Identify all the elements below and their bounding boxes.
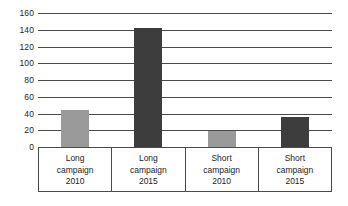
category-label-table: Longcampaign2010Longcampaign2015Shortcam…: [38, 147, 332, 192]
y-gridline: [38, 80, 332, 81]
y-axis-tick-label: 80: [2, 76, 34, 85]
bar-chart-figure: Longcampaign2010Longcampaign2015Shortcam…: [0, 0, 348, 206]
category-label-cell: Longcampaign2015: [112, 148, 185, 191]
y-gridline: [38, 47, 332, 48]
y-axis-tick-label: 40: [2, 110, 34, 119]
y-gridline: [38, 63, 332, 64]
y-axis-tick-label: 60: [2, 93, 34, 102]
category-label-line: campaign: [57, 165, 94, 176]
category-label-line: 2015: [285, 176, 304, 187]
bar: [134, 28, 162, 147]
y-gridline: [38, 30, 332, 31]
category-label-cell: Longcampaign2010: [39, 148, 112, 191]
y-axis-tick-label: 100: [2, 59, 34, 68]
category-label-cell: Shortcampaign2010: [186, 148, 259, 191]
category-label-line: Short: [285, 153, 305, 164]
category-label-line: campaign: [203, 165, 240, 176]
category-label-line: Short: [211, 153, 231, 164]
category-label-line: campaign: [130, 165, 167, 176]
category-label-cell: Shortcampaign2015: [259, 148, 331, 191]
category-label-line: Long: [66, 153, 85, 164]
y-axis-tick-label: 20: [2, 126, 34, 135]
bar: [281, 117, 309, 147]
plot-area: [38, 13, 332, 147]
bar: [61, 110, 89, 147]
y-gridline: [38, 97, 332, 98]
y-axis-tick-label: 160: [2, 9, 34, 18]
category-label-line: campaign: [276, 165, 313, 176]
category-label-line: Long: [139, 153, 158, 164]
y-axis-tick-label: 140: [2, 26, 34, 35]
y-axis-tick-label: 0: [2, 143, 34, 152]
y-gridline: [38, 13, 332, 14]
category-label-line: 2015: [139, 176, 158, 187]
bar: [208, 131, 236, 147]
y-axis-tick-label: 120: [2, 43, 34, 52]
category-label-line: 2010: [66, 176, 85, 187]
category-label-line: 2010: [212, 176, 231, 187]
